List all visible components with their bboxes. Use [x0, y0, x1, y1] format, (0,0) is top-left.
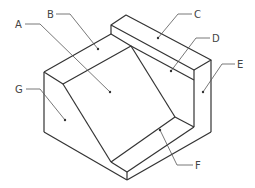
- label-C: C: [194, 9, 201, 20]
- part-edges: [44, 15, 211, 180]
- callout-B: B: [47, 9, 99, 50]
- callout-A: A: [15, 19, 111, 93]
- label-E: E: [237, 59, 243, 70]
- callout-G: G: [15, 84, 66, 121]
- label-A: A: [15, 19, 22, 30]
- callout-D: D: [170, 33, 220, 72]
- label-D: D: [212, 33, 220, 44]
- label-G: G: [15, 84, 23, 95]
- label-B: B: [47, 9, 54, 20]
- isometric-drawing: A B C D E F G: [0, 0, 255, 188]
- callout-E: E: [202, 59, 244, 93]
- label-F: F: [195, 160, 201, 171]
